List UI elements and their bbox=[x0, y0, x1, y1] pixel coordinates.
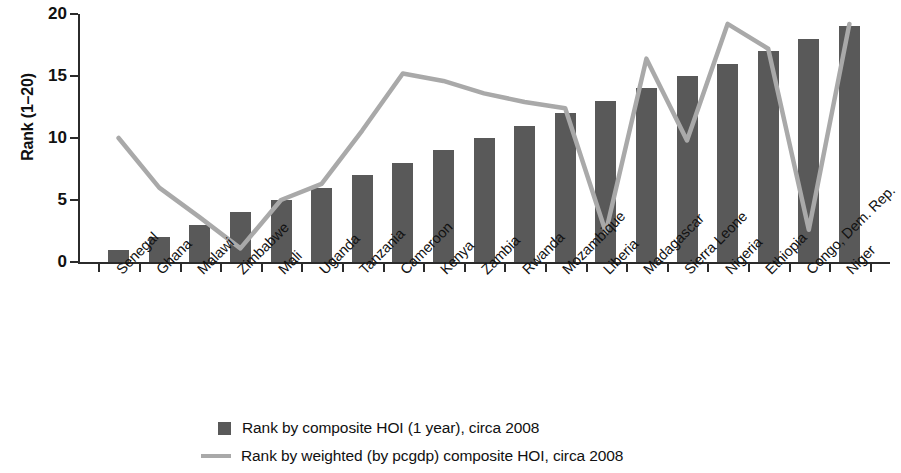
y-tick-label: 20 bbox=[48, 4, 67, 24]
bar bbox=[798, 39, 819, 262]
legend-item-bar: Rank by composite HOI (1 year), circa 20… bbox=[218, 414, 858, 442]
y-tick-mark bbox=[70, 75, 78, 77]
bar bbox=[636, 88, 657, 262]
legend-item-line-label: Rank by weighted (by pcgdp) composite HO… bbox=[241, 447, 623, 465]
y-tick-label: 0 bbox=[58, 252, 67, 272]
y-tick-mark bbox=[70, 13, 78, 15]
bar bbox=[474, 138, 495, 262]
bar bbox=[758, 51, 779, 262]
y-tick-label: 10 bbox=[48, 128, 67, 148]
chart-legend: Rank by composite HOI (1 year), circa 20… bbox=[218, 414, 858, 470]
plot-area: 05101520 bbox=[78, 14, 890, 264]
y-tick-mark bbox=[70, 261, 78, 263]
x-axis-labels: SenegalGhanaMalawiZimbabweMaliUgandaTanz… bbox=[78, 266, 890, 386]
chart-figure: Rank (1–20) 05101520 SenegalGhanaMalawiZ… bbox=[0, 0, 901, 473]
y-tick-label: 15 bbox=[48, 66, 67, 86]
bar bbox=[311, 188, 332, 262]
y-tick-mark bbox=[70, 199, 78, 201]
y-tick-label: 5 bbox=[58, 190, 67, 210]
legend-item-line: Rank by weighted (by pcgdp) composite HO… bbox=[218, 442, 858, 470]
legend-line-swatch-icon bbox=[201, 454, 231, 458]
legend-item-bar-label: Rank by composite HOI (1 year), circa 20… bbox=[242, 419, 539, 437]
y-axis-line bbox=[78, 14, 80, 264]
y-axis-title: Rank (1–20) bbox=[19, 37, 37, 197]
legend-bar-swatch-icon bbox=[218, 422, 231, 435]
y-tick-mark bbox=[70, 137, 78, 139]
